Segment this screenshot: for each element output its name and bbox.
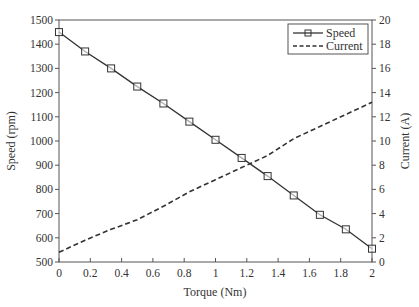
- speed-marker-square-icon: [290, 192, 297, 199]
- y-tick-label: 1300: [30, 62, 53, 74]
- speed-marker-square-icon: [82, 48, 89, 55]
- y-tick-label: 1200: [30, 87, 53, 99]
- y2-tick-label: 0: [379, 256, 385, 268]
- current-line: [59, 102, 372, 252]
- current-series: [59, 102, 372, 252]
- y2-tick-label: 2: [379, 232, 385, 244]
- y2-tick-label: 18: [379, 38, 391, 50]
- x-tick-label: 2: [369, 267, 375, 279]
- y2-tick-label: 14: [379, 87, 391, 99]
- speed-marker-square-icon: [212, 136, 219, 143]
- x-axis-ticks: 00.20.40.60.811.21.41.61.82: [56, 258, 375, 279]
- speed-marker-square-icon: [186, 118, 193, 125]
- y-tick-label: 500: [36, 256, 54, 268]
- y2-tick-label: 16: [379, 62, 391, 74]
- left-y-axis-label: Speed (rpm): [4, 111, 18, 171]
- x-tick-label: 0.8: [177, 267, 192, 279]
- y-tick-label: 800: [36, 183, 54, 195]
- legend-speed-label: Speed: [326, 26, 355, 40]
- x-tick-label: 1.2: [240, 267, 255, 279]
- x-tick-label: 0.4: [114, 267, 129, 279]
- x-tick-label: 1.6: [302, 267, 317, 279]
- speed-marker-square-icon: [134, 83, 141, 90]
- legend-current-label: Current: [326, 39, 363, 53]
- y-tick-label: 900: [36, 159, 54, 171]
- x-tick-label: 0.6: [146, 267, 161, 279]
- speed-marker-square-icon: [108, 65, 115, 72]
- y-tick-label: 700: [36, 208, 54, 220]
- speed-marker-square-icon: [342, 226, 349, 233]
- speed-marker-square-icon: [56, 29, 63, 36]
- speed-marker-square-icon: [238, 154, 245, 161]
- y2-tick-label: 8: [379, 159, 385, 171]
- speed-series: [56, 29, 376, 253]
- x-tick-label: 1.8: [334, 267, 349, 279]
- y2-tick-label: 4: [379, 208, 385, 220]
- x-tick-label: 1.4: [271, 267, 286, 279]
- speed-marker-square-icon: [160, 100, 167, 107]
- right-y-axis-label: Current (A): [398, 113, 412, 169]
- y2-tick-label: 20: [379, 14, 391, 26]
- y-tick-label: 600: [36, 232, 54, 244]
- y-tick-label: 1500: [30, 14, 53, 26]
- speed-marker-square-icon: [264, 173, 271, 180]
- y2-tick-label: 10: [379, 135, 391, 147]
- y2-tick-label: 6: [379, 183, 385, 195]
- left-y-axis-ticks: 500600700800900100011001200130014001500: [30, 14, 59, 268]
- x-tick-label: 0: [56, 267, 62, 279]
- right-y-axis-ticks: 02468101214161820: [372, 14, 391, 268]
- legend: Speed Current: [288, 24, 368, 54]
- speed-marker-square-icon: [316, 211, 323, 218]
- y-tick-label: 1100: [30, 111, 53, 123]
- x-axis-label: Torque (Nm): [184, 285, 247, 299]
- x-tick-label: 1: [213, 267, 219, 279]
- y-tick-label: 1400: [30, 38, 53, 50]
- speed-current-chart: 00.20.40.60.811.21.41.61.82 500600700800…: [0, 0, 419, 307]
- y-tick-label: 1000: [30, 135, 53, 147]
- y2-tick-label: 12: [379, 111, 391, 123]
- speed-marker-square-icon: [369, 245, 376, 252]
- x-tick-label: 0.2: [83, 267, 98, 279]
